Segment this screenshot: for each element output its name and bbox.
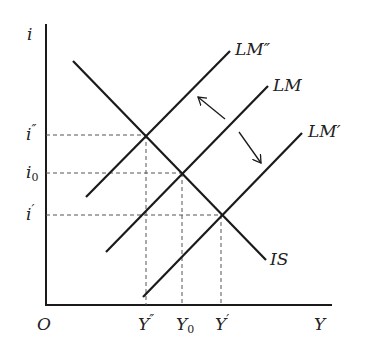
lm2-curve	[86, 51, 230, 197]
y-tick-i1: i′	[26, 202, 34, 224]
shift-arrow-up-left	[198, 97, 225, 119]
y-axis-label: i	[27, 24, 32, 44]
shift-arrow-down-right	[239, 132, 261, 163]
origin-label: O	[37, 314, 51, 334]
x-tick-Y1-mark: ′	[226, 312, 229, 327]
is-curve	[73, 61, 266, 260]
y-tick-i2: i″	[26, 122, 36, 144]
x-tick-Y1: Y′	[215, 312, 229, 334]
y-tick-i0-sub: 0	[31, 171, 38, 184]
y-tick-i1-mark: ′	[31, 202, 34, 217]
lm2-label: LM″	[234, 39, 271, 59]
lm1-label: LM′	[307, 121, 341, 141]
lm0-curve	[106, 86, 268, 252]
x-tick-Y2: Y″	[138, 312, 154, 334]
y-tick-i0: i0	[26, 162, 38, 184]
is-lm-diagram: LM″ LM LM′ IS i Y O i″ i0 i′ Y″ Y0 Y′	[0, 0, 366, 347]
x-tick-Y0-sub: 0	[187, 323, 194, 336]
y-tick-i2-mark: ″	[31, 122, 36, 137]
x-axis-label: Y	[314, 314, 327, 334]
lm0-label: LM	[272, 75, 302, 95]
x-tick-Y2-mark: ″	[149, 312, 154, 327]
x-tick-Y0: Y0	[176, 314, 194, 336]
is-label: IS	[269, 249, 288, 269]
